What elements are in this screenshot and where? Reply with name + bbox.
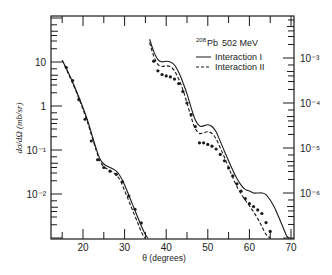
data-point — [127, 194, 130, 197]
data-point — [202, 141, 205, 144]
data-point — [227, 166, 230, 169]
data-point — [219, 153, 222, 156]
data-point — [239, 190, 242, 193]
data-point — [169, 75, 172, 78]
data-point — [244, 197, 247, 200]
data-point — [108, 170, 111, 173]
annotation-energy: 502 MeV — [222, 38, 258, 48]
data-point — [256, 208, 259, 211]
data-point — [160, 73, 163, 76]
data-point — [185, 101, 188, 104]
y-axis-title: dσ/dΩ (mb/sr) — [14, 102, 24, 153]
data-point — [121, 180, 124, 183]
data-point — [206, 143, 209, 146]
data-point — [133, 208, 136, 211]
data-point — [71, 79, 74, 82]
x-tick-label: 30 — [119, 242, 131, 253]
x-tick-label: 70 — [285, 242, 297, 253]
legend-label-interaction-1: Interaction I — [215, 52, 262, 62]
data-point — [190, 113, 193, 116]
data-point — [231, 174, 234, 177]
data-point — [77, 98, 80, 101]
x-axis-title: θ (degrees) — [142, 253, 186, 263]
y-tick-label-right: 10⁻⁴ — [300, 98, 320, 109]
data-point — [248, 202, 251, 205]
plot-frame — [51, 16, 294, 239]
data-point — [194, 125, 197, 128]
data-point — [181, 90, 184, 93]
x-tick-label: 60 — [244, 242, 256, 253]
legend: 208Pb 502 MeV Interaction I Interaction … — [196, 37, 265, 72]
interaction-1-curve — [62, 60, 148, 238]
data-point — [198, 141, 201, 144]
data-point — [102, 166, 105, 169]
cross-section-chart: 203040506070 10110⁻¹10⁻²10⁻³10⁻⁴10⁻⁵10⁻⁶… — [0, 0, 332, 275]
data-point — [235, 182, 238, 185]
x-tick-label: 50 — [202, 242, 214, 253]
nucleus-symbol: Pb — [207, 38, 218, 48]
y-tick-label-left: 1 — [40, 101, 46, 112]
data-point — [264, 221, 267, 224]
data-point — [156, 69, 159, 72]
y-tick-label-right: 10⁻³ — [300, 53, 320, 64]
data-point — [165, 74, 168, 77]
data-point — [223, 159, 226, 162]
data-point — [177, 82, 180, 85]
data-point — [96, 158, 99, 161]
legend-label-interaction-2: Interaction II — [215, 62, 265, 72]
annotation-nucleus: 208Pb — [196, 37, 218, 48]
data-point — [215, 147, 218, 150]
y-tick-label-left: 10 — [35, 57, 47, 68]
data-point — [115, 173, 118, 176]
y-tick-label-left: 10⁻¹ — [27, 145, 47, 156]
y-axis-ticks: 10110⁻¹10⁻²10⁻³10⁻⁴10⁻⁵10⁻⁶ — [27, 18, 321, 238]
data-point — [90, 139, 93, 142]
data-point — [210, 145, 213, 148]
data-point — [252, 205, 255, 208]
y-tick-label-right: 10⁻⁶ — [300, 188, 320, 199]
nucleus-mass: 208 — [196, 37, 207, 43]
data-point — [173, 77, 176, 80]
x-tick-label: 20 — [77, 242, 89, 253]
x-tick-label: 40 — [161, 242, 173, 253]
data-point — [152, 60, 155, 63]
y-tick-label-right: 10⁻⁵ — [300, 143, 320, 154]
data-point — [260, 212, 263, 215]
interaction-2-curve — [62, 60, 144, 238]
y-tick-label-left: 10⁻² — [27, 189, 47, 200]
data-point — [83, 118, 86, 121]
data-point — [269, 230, 272, 233]
data-point — [140, 221, 143, 224]
data-point — [65, 66, 68, 69]
